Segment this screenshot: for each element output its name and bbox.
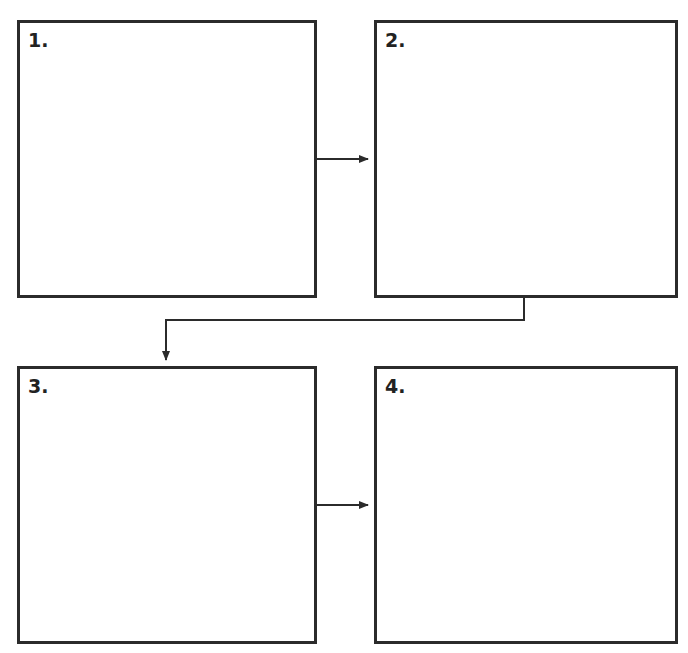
arrow-2-to-3 [166, 298, 524, 360]
connector-arrows [0, 0, 688, 653]
